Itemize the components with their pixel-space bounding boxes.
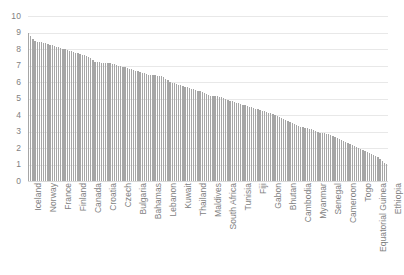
bar (328, 134, 329, 181)
bar (352, 145, 353, 181)
bar (371, 154, 372, 181)
bar (150, 75, 151, 181)
bar (187, 87, 188, 181)
bar (292, 123, 293, 181)
bar (330, 135, 331, 181)
bar (116, 65, 117, 181)
bar (195, 90, 196, 181)
bar (163, 77, 164, 181)
bar (161, 76, 162, 181)
bar (229, 101, 230, 181)
y-axis-tick-label: 4 (0, 111, 21, 120)
bar (264, 111, 265, 181)
bar (182, 86, 183, 181)
bar (375, 156, 376, 181)
bar (223, 98, 224, 181)
bar (197, 91, 198, 181)
bar (311, 129, 312, 181)
x-axis-tick-label: Togo (363, 183, 374, 275)
bar (296, 125, 297, 181)
bar (332, 136, 333, 181)
bar (90, 58, 91, 181)
bar (142, 73, 143, 181)
bar (176, 84, 177, 181)
bar (337, 138, 338, 181)
bar (225, 99, 226, 181)
y-axis-tick-label: 7 (0, 61, 21, 70)
x-axis-tick-label: Bhutan (288, 183, 299, 275)
bar (45, 43, 46, 181)
x-axis-tick-label: Senegal (333, 183, 344, 275)
x-axis: IcelandNorwayFranceFinlandCanadaCroatiaC… (28, 183, 388, 275)
bar (124, 67, 125, 181)
x-axis-tick-label: Czech (123, 183, 134, 275)
bar (120, 66, 121, 181)
x-axis-tick-label: France (63, 183, 74, 275)
x-axis-tick-label: Cambodia (303, 183, 314, 275)
bar (103, 63, 104, 181)
x-axis-tick-label: South Africa (228, 183, 239, 275)
bar (43, 43, 44, 181)
bar (255, 109, 256, 181)
y-axis-tick-label: 5 (0, 94, 21, 103)
y-axis-tick-label: 10 (0, 12, 21, 21)
x-axis-tick-label: Kuwait (183, 183, 194, 275)
bar (92, 60, 93, 181)
bar (75, 53, 76, 181)
bar (28, 33, 29, 181)
bar (287, 121, 288, 181)
x-axis-tick-label: Iceland (33, 183, 44, 275)
bar (47, 44, 48, 181)
bar (199, 91, 200, 181)
bar (71, 51, 72, 181)
bar (257, 109, 258, 181)
bar (174, 83, 175, 181)
bar (88, 57, 89, 181)
x-axis-tick-label: Norway (48, 183, 59, 275)
bar (202, 92, 203, 181)
bar (317, 132, 318, 181)
bar (307, 128, 308, 181)
bar (86, 56, 87, 181)
bar (266, 112, 267, 181)
bar (247, 106, 248, 181)
bar (384, 163, 385, 181)
bar (319, 133, 320, 181)
bar (208, 95, 209, 181)
x-axis-tick-label: Equatorial Guinea (378, 183, 389, 275)
bar (139, 72, 140, 181)
x-axis-tick-label: Croatia (108, 183, 119, 275)
x-axis-tick-label: Tunisia (243, 183, 254, 275)
bar (347, 143, 348, 181)
bar (240, 104, 241, 181)
bar (294, 124, 295, 181)
bar (262, 111, 263, 181)
bar (114, 64, 115, 181)
bar (193, 89, 194, 181)
bar (326, 134, 327, 181)
bar (99, 62, 100, 181)
bar (324, 133, 325, 181)
bar (285, 120, 286, 181)
bar (52, 45, 53, 181)
x-axis-tick-label: Gabon (273, 183, 284, 275)
bar (82, 55, 83, 181)
bar (49, 45, 50, 181)
x-axis-tick-label: Lebanon (168, 183, 179, 275)
bar (369, 153, 370, 181)
bar (232, 101, 233, 181)
bar (152, 75, 153, 181)
bar (84, 55, 85, 181)
bar (64, 49, 65, 181)
bar (62, 49, 63, 181)
bar (146, 74, 147, 181)
bar (191, 89, 192, 181)
x-axis-tick-label: Maldives (213, 183, 224, 275)
bar (251, 107, 252, 181)
bar (172, 83, 173, 181)
bar (274, 115, 275, 181)
bar (302, 127, 303, 181)
bar (159, 76, 160, 181)
bar (377, 157, 378, 181)
bar (217, 96, 218, 181)
